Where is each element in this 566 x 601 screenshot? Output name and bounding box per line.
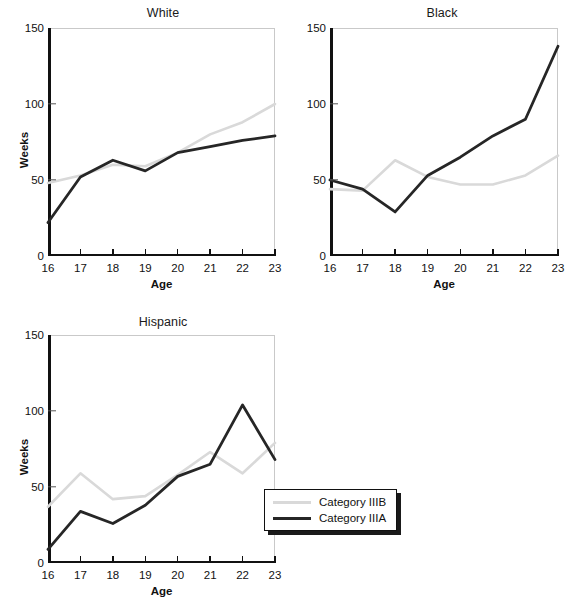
x-tick-label: 18 xyxy=(389,262,402,274)
panel-black: Black Age 0501001501617181920212223 xyxy=(296,6,564,298)
panel-white-title: White xyxy=(38,6,288,20)
x-tick-mark xyxy=(274,556,275,563)
x-tick-label: 18 xyxy=(106,569,119,581)
panel-black-title: Black xyxy=(320,6,564,20)
x-tick-label: 17 xyxy=(74,262,87,274)
panel-hispanic: Hispanic Weeks Age 050100150161718192021… xyxy=(8,315,288,601)
x-tick-mark xyxy=(80,249,81,256)
series-line xyxy=(330,156,558,191)
x-tick-mark xyxy=(492,249,493,256)
y-tick-label: 0 xyxy=(320,250,326,262)
panel-hispanic-plot-area xyxy=(48,335,275,563)
legend-item-category-iiia: Category IIIA xyxy=(273,512,386,524)
x-tick-mark xyxy=(427,249,428,256)
x-tick-label: 17 xyxy=(74,569,87,581)
x-tick-label: 16 xyxy=(42,262,55,274)
x-tick-mark xyxy=(274,249,275,256)
y-tick-mark xyxy=(48,179,56,180)
y-tick-label: 50 xyxy=(313,174,326,186)
x-tick-label: 17 xyxy=(356,262,369,274)
legend-label-iiib: Category IIIB xyxy=(319,496,386,508)
y-tick-label: 100 xyxy=(25,98,44,110)
x-tick-label: 21 xyxy=(204,569,217,581)
legend-line-swatch-iiia xyxy=(273,517,311,520)
panel-hispanic-x-axis-title: Age xyxy=(48,585,275,597)
x-tick-label: 19 xyxy=(421,262,434,274)
series-line xyxy=(48,405,275,549)
panel-white-plot-area xyxy=(48,28,275,256)
series-line xyxy=(48,136,275,223)
y-tick-label: 50 xyxy=(31,174,44,186)
x-tick-mark xyxy=(112,249,113,256)
x-tick-mark xyxy=(242,249,243,256)
x-tick-label: 20 xyxy=(454,262,467,274)
panel-white: White Weeks Age 050100150161718192021222… xyxy=(8,6,288,298)
x-tick-label: 23 xyxy=(269,262,282,274)
x-tick-label: 21 xyxy=(204,262,217,274)
series-layer xyxy=(48,335,275,563)
series-line xyxy=(48,104,275,183)
series-line xyxy=(48,443,275,507)
y-tick-label: 0 xyxy=(38,557,44,569)
x-tick-mark xyxy=(362,249,363,256)
y-tick-label: 150 xyxy=(307,22,326,34)
x-tick-label: 16 xyxy=(324,262,337,274)
x-tick-label: 20 xyxy=(171,569,184,581)
panel-black-x-axis-title: Age xyxy=(330,278,558,290)
y-tick-label: 150 xyxy=(25,329,44,341)
panel-white-y-axis-title: Weeks xyxy=(18,120,30,180)
legend-label-iiia: Category IIIA xyxy=(319,512,386,524)
x-tick-mark xyxy=(177,249,178,256)
panel-black-plot-area xyxy=(330,28,558,256)
x-tick-label: 16 xyxy=(42,569,55,581)
x-tick-label: 19 xyxy=(139,569,152,581)
series-line xyxy=(330,46,558,212)
x-tick-label: 22 xyxy=(236,569,249,581)
x-tick-mark xyxy=(557,249,558,256)
x-tick-label: 23 xyxy=(269,569,282,581)
legend: Category IIIB Category IIIA xyxy=(264,489,397,531)
x-tick-label: 21 xyxy=(486,262,499,274)
legend-line-swatch-iiib xyxy=(273,501,311,504)
y-tick-mark xyxy=(330,179,338,180)
y-tick-label: 50 xyxy=(31,481,44,493)
x-tick-label: 22 xyxy=(519,262,532,274)
y-tick-label: 100 xyxy=(25,405,44,417)
x-tick-mark xyxy=(145,556,146,563)
y-tick-mark xyxy=(48,103,56,104)
x-tick-label: 18 xyxy=(106,262,119,274)
x-tick-mark xyxy=(525,249,526,256)
y-tick-mark xyxy=(48,486,56,487)
x-tick-label: 23 xyxy=(552,262,565,274)
panel-hispanic-y-axis-title: Weeks xyxy=(18,427,30,487)
x-tick-label: 20 xyxy=(171,262,184,274)
x-tick-mark xyxy=(242,556,243,563)
x-tick-mark xyxy=(112,556,113,563)
x-tick-label: 19 xyxy=(139,262,152,274)
x-tick-mark xyxy=(177,556,178,563)
legend-item-category-iiib: Category IIIB xyxy=(273,496,386,508)
x-tick-mark xyxy=(209,249,210,256)
panel-hispanic-title: Hispanic xyxy=(38,315,288,329)
x-tick-mark xyxy=(145,249,146,256)
y-tick-mark xyxy=(330,103,338,104)
x-tick-mark xyxy=(394,249,395,256)
x-tick-label: 22 xyxy=(236,262,249,274)
y-tick-label: 0 xyxy=(38,250,44,262)
series-layer xyxy=(330,28,558,256)
y-tick-mark xyxy=(48,410,56,411)
panel-white-x-axis-title: Age xyxy=(48,278,275,290)
y-tick-label: 100 xyxy=(307,98,326,110)
x-tick-mark xyxy=(80,556,81,563)
x-tick-mark xyxy=(209,556,210,563)
y-tick-label: 150 xyxy=(25,22,44,34)
series-layer xyxy=(48,28,275,256)
x-tick-mark xyxy=(460,249,461,256)
